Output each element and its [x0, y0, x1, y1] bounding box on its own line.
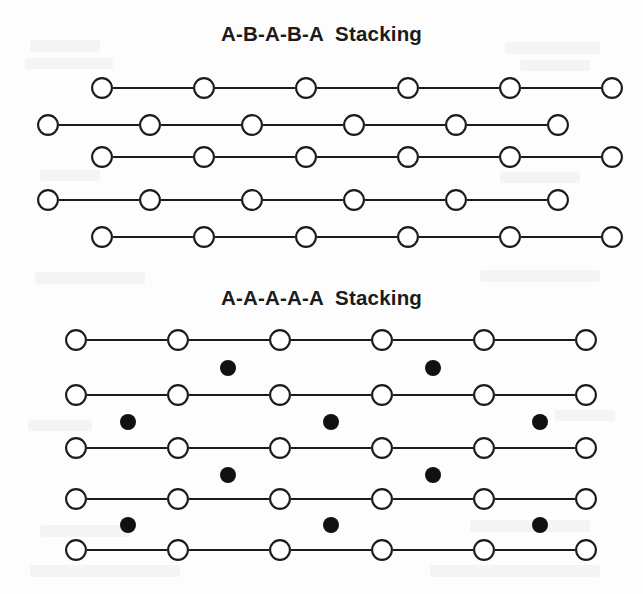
open-atom-circle	[500, 147, 520, 167]
atom-row-layer-4	[38, 190, 568, 210]
open-atom-circle	[66, 540, 86, 560]
open-atom-circle	[602, 147, 622, 167]
atom-row-layer-3	[92, 147, 622, 167]
atom-row-layer-5	[66, 540, 596, 560]
open-atom-circle	[576, 540, 596, 560]
panel-aba-stacking: A-B-A-B-A Stacking	[0, 0, 643, 280]
open-atom-circle	[92, 78, 112, 98]
open-atom-circle	[372, 438, 392, 458]
open-atom-circle	[296, 227, 316, 247]
open-atom-circle	[38, 190, 58, 210]
open-atom-circle	[66, 385, 86, 405]
open-atom-circle	[602, 227, 622, 247]
open-atom-circle	[474, 540, 494, 560]
open-atom-circle	[168, 385, 188, 405]
filled-interstitial-dot	[220, 467, 236, 483]
open-atom-circle	[398, 227, 418, 247]
open-atom-circle	[66, 438, 86, 458]
open-atom-circle	[372, 489, 392, 509]
open-atom-circle	[474, 438, 494, 458]
open-atom-circle	[92, 147, 112, 167]
interstitial-row-3	[220, 467, 441, 483]
open-atom-circle	[140, 115, 160, 135]
interstitial-row-2	[120, 414, 548, 430]
open-atom-circle	[576, 489, 596, 509]
open-atom-circle	[576, 385, 596, 405]
open-atom-circle	[194, 78, 214, 98]
open-atom-circle	[576, 330, 596, 350]
open-atom-circle	[92, 227, 112, 247]
open-atom-circle	[270, 540, 290, 560]
open-atom-circle	[194, 147, 214, 167]
open-atom-circle	[372, 540, 392, 560]
open-atom-circle	[296, 147, 316, 167]
open-atom-circle	[372, 330, 392, 350]
open-atom-circle	[66, 330, 86, 350]
open-atom-circle	[548, 190, 568, 210]
open-atom-circle	[242, 190, 262, 210]
atom-row-layer-5	[92, 227, 622, 247]
atom-row-layer-2	[66, 385, 596, 405]
atom-row-layer-2	[38, 115, 568, 135]
lattice-diagram-aba	[0, 0, 643, 280]
open-atom-circle	[270, 385, 290, 405]
panel-aaa-stacking: A-A-A-A-A Stacking	[0, 280, 643, 594]
open-atom-circle	[194, 227, 214, 247]
atom-row-layer-4	[66, 489, 596, 509]
open-atom-circle	[168, 489, 188, 509]
open-atom-circle	[548, 115, 568, 135]
filled-interstitial-dot	[532, 517, 548, 533]
open-atom-circle	[602, 78, 622, 98]
open-atom-circle	[446, 190, 466, 210]
open-atom-circle	[500, 227, 520, 247]
open-atom-circle	[168, 330, 188, 350]
filled-interstitial-dot	[425, 467, 441, 483]
open-atom-circle	[168, 540, 188, 560]
filled-interstitial-dot	[425, 360, 441, 376]
filled-interstitial-dot	[323, 517, 339, 533]
filled-interstitial-dot	[532, 414, 548, 430]
open-atom-circle	[66, 489, 86, 509]
open-atom-circle	[372, 385, 392, 405]
open-atom-circle	[270, 489, 290, 509]
atom-row-layer-1	[92, 78, 622, 98]
filled-interstitial-dot	[323, 414, 339, 430]
filled-interstitial-dot	[220, 360, 236, 376]
open-atom-circle	[398, 78, 418, 98]
open-atom-circle	[474, 489, 494, 509]
open-atom-circle	[500, 78, 520, 98]
open-atom-circle	[446, 115, 466, 135]
open-atom-circle	[270, 438, 290, 458]
atom-row-layer-1	[66, 330, 596, 350]
interstitial-row-1	[220, 360, 441, 376]
open-atom-circle	[270, 330, 290, 350]
lattice-diagram-aaa	[0, 280, 643, 594]
filled-interstitial-dot	[120, 517, 136, 533]
stacking-figure: A-B-A-B-A Stacking A-A-A-A-A Stacking	[0, 0, 643, 594]
interstitial-row-4	[120, 517, 548, 533]
atom-row-layer-3	[66, 438, 596, 458]
open-atom-circle	[474, 330, 494, 350]
open-atom-circle	[474, 385, 494, 405]
open-atom-circle	[168, 438, 188, 458]
open-atom-circle	[344, 115, 364, 135]
open-atom-circle	[344, 190, 364, 210]
open-atom-circle	[38, 115, 58, 135]
open-atom-circle	[140, 190, 160, 210]
open-atom-circle	[242, 115, 262, 135]
open-atom-circle	[398, 147, 418, 167]
open-atom-circle	[576, 438, 596, 458]
filled-interstitial-dot	[120, 414, 136, 430]
open-atom-circle	[296, 78, 316, 98]
